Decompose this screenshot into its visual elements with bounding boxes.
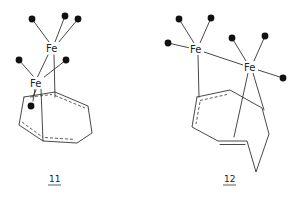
compound-12-ring xyxy=(192,90,269,172)
compound-12-right-fe-ligands xyxy=(229,33,287,82)
compound-12: Fe Fe 12 xyxy=(165,15,287,185)
co-ligand-icon xyxy=(176,16,183,23)
co-ligand-icon xyxy=(208,15,215,22)
co-ligand-icon xyxy=(16,57,23,64)
co-ligand-icon xyxy=(63,57,70,64)
co-ligand-icon xyxy=(280,75,287,82)
compound-11-metal-ring-bonds xyxy=(33,55,55,141)
figure-canvas: Fe Fe 11 xyxy=(0,0,299,199)
fe-atom-label: Fe xyxy=(46,43,57,54)
compound-11-ring xyxy=(19,92,92,143)
co-ligand-icon xyxy=(28,103,35,110)
co-ligand-icon xyxy=(29,16,36,23)
compound-number-12: 12 xyxy=(224,174,235,184)
co-ligand-icon xyxy=(75,16,82,23)
co-ligand-icon xyxy=(165,40,172,47)
fe-atom-label: Fe xyxy=(30,78,41,89)
co-ligand-icon xyxy=(229,35,236,42)
co-ligand-icon xyxy=(62,13,69,20)
compound-11: Fe Fe 11 xyxy=(16,13,92,185)
compound-number-11: 11 xyxy=(49,174,60,184)
fe-atom-label: Fe xyxy=(244,62,255,73)
fe-atom-label: Fe xyxy=(190,44,201,55)
co-ligand-icon xyxy=(262,33,269,40)
compound-12-left-fe-ligands xyxy=(165,15,215,48)
compound-11-upper-fe-ligands xyxy=(29,13,82,43)
